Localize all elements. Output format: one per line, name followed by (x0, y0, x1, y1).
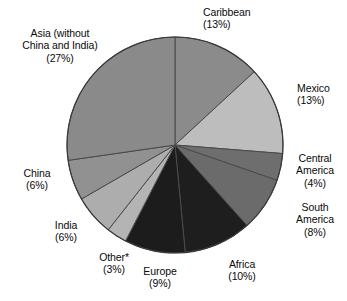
pie-chart-figure: Caribbean (13%) Asia (without China and … (0, 0, 347, 301)
pie-label-mexico-value: (13%) (297, 94, 330, 106)
pie-label-africa-value: (10%) (216, 270, 268, 282)
pie-label-china-value: (6%) (10, 179, 64, 191)
pie-label-asia: Asia (without China and India) (27%) (8, 27, 112, 64)
pie-label-central-america-name-line2: America (286, 164, 344, 176)
pie-label-south-america-name-line2: America (286, 213, 344, 225)
pie-label-india: India (6%) (42, 219, 90, 244)
pie-label-other-name: Other* (90, 251, 138, 263)
pie-label-caribbean-name: Caribbean (203, 6, 251, 18)
pie-label-south-america: South America (8%) (286, 201, 344, 238)
pie-label-mexico-name: Mexico (297, 82, 330, 94)
pie-label-asia-value: (27%) (8, 52, 112, 64)
pie-label-europe: Europe (9%) (134, 265, 186, 290)
pie-label-europe-value: (9%) (134, 277, 186, 289)
pie-label-caribbean: Caribbean (13%) (203, 6, 251, 31)
pie-label-other: Other* (3%) (90, 251, 138, 276)
pie-label-caribbean-value: (13%) (203, 18, 251, 30)
pie-slice-group (67, 37, 283, 253)
pie-label-mexico: Mexico (13%) (297, 82, 330, 107)
pie-label-china-name: China (10, 167, 64, 179)
pie-label-africa: Africa (10%) (216, 258, 268, 283)
pie-label-central-america-name-line1: Central (286, 152, 344, 164)
pie-label-china: China (6%) (10, 167, 64, 192)
pie-label-africa-name: Africa (216, 258, 268, 270)
pie-label-india-name: India (42, 219, 90, 231)
pie-label-central-america-value: (4%) (286, 177, 344, 189)
pie-label-asia-name-line2: China and India) (8, 39, 112, 51)
pie-label-india-value: (6%) (42, 231, 90, 243)
pie-label-other-value: (3%) (90, 263, 138, 275)
pie-label-south-america-value: (8%) (286, 226, 344, 238)
pie-label-south-america-name-line1: South (286, 201, 344, 213)
pie-label-europe-name: Europe (134, 265, 186, 277)
pie-label-asia-name-line1: Asia (without (8, 27, 112, 39)
pie-label-central-america: Central America (4%) (286, 152, 344, 189)
